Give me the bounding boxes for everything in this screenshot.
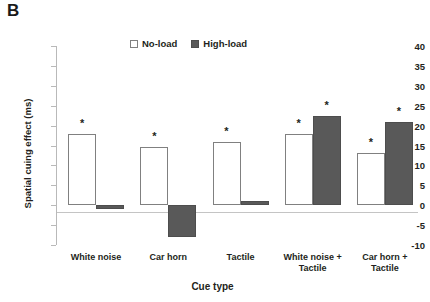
filled-square-icon bbox=[191, 40, 199, 48]
significance-asterisk: * bbox=[152, 131, 156, 142]
open-square-icon bbox=[130, 40, 138, 48]
y-tick-label: 25 bbox=[381, 100, 425, 111]
legend-label-high-load: High-load bbox=[203, 38, 247, 49]
bar-no-load bbox=[213, 142, 241, 206]
y-tick-mark bbox=[51, 205, 56, 206]
bar-no-load bbox=[357, 153, 385, 205]
y-tick-label: -5 bbox=[381, 220, 425, 231]
legend-item-no-load: No-load bbox=[130, 38, 177, 49]
legend-item-high-load: High-load bbox=[191, 38, 247, 49]
y-tick-mark bbox=[51, 146, 56, 147]
x-category-label-line: Car horn + bbox=[340, 252, 430, 263]
significance-asterisk: * bbox=[369, 137, 373, 148]
bar-high-load bbox=[168, 205, 196, 237]
y-axis-title: Spatial cuing effect (ms) bbox=[22, 69, 33, 239]
significance-asterisk: * bbox=[325, 100, 329, 111]
x-category-label: Car horn +Tactile bbox=[340, 252, 430, 274]
y-tick-mark bbox=[51, 106, 56, 107]
bar-no-load bbox=[140, 147, 168, 205]
legend-label-no-load: No-load bbox=[142, 38, 177, 49]
y-tick-mark bbox=[51, 165, 56, 166]
y-tick-mark bbox=[51, 126, 56, 127]
bar-high-load bbox=[96, 205, 124, 209]
chart-legend: No-load High-load bbox=[130, 38, 247, 49]
zero-baseline bbox=[57, 212, 418, 213]
bar-no-load bbox=[285, 134, 313, 206]
y-tick-mark bbox=[51, 185, 56, 186]
bar-no-load bbox=[68, 134, 96, 206]
y-tick-mark bbox=[51, 225, 56, 226]
y-tick-label: 35 bbox=[381, 60, 425, 71]
y-tick-mark bbox=[51, 245, 56, 246]
significance-asterisk: * bbox=[224, 126, 228, 137]
bar-high-load bbox=[385, 122, 413, 206]
bar-high-load bbox=[313, 116, 341, 206]
x-axis-title: Cue type bbox=[0, 281, 425, 292]
panel-label: B bbox=[7, 2, 19, 19]
significance-asterisk: * bbox=[297, 118, 301, 129]
y-tick-label: -10 bbox=[381, 240, 425, 251]
significance-asterisk: * bbox=[397, 106, 401, 117]
y-tick-mark bbox=[51, 66, 56, 67]
y-tick-label: 40 bbox=[381, 41, 425, 52]
y-tick-mark bbox=[51, 46, 56, 47]
y-tick-mark bbox=[51, 86, 56, 87]
significance-asterisk: * bbox=[80, 118, 84, 129]
y-tick-label: 30 bbox=[381, 80, 425, 91]
y-axis-line bbox=[56, 46, 57, 245]
bar-high-load bbox=[241, 201, 269, 205]
x-category-label-line: Tactile bbox=[340, 263, 430, 274]
